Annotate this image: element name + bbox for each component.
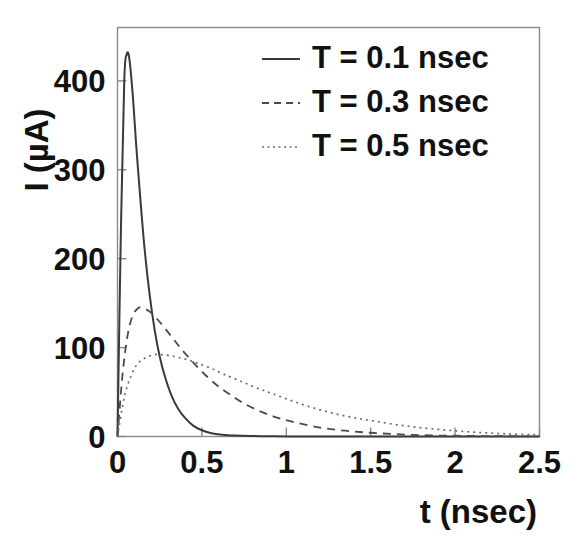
legend-label: T = 0.3 nsec (312, 84, 489, 119)
x-tick-label: 0 (109, 445, 126, 480)
x-tick-label: 0.5 (180, 445, 223, 480)
legend-label: T = 0.1 nsec (312, 40, 489, 75)
y-tick-label: 300 (54, 153, 106, 188)
x-tick-label: 1 (278, 445, 295, 480)
chart-plot-area: 00.511.522.5 0100200300400 T = 0.1 nsecT… (0, 0, 586, 541)
y-tick-label: 100 (54, 331, 106, 366)
y-tick-label: 200 (54, 242, 106, 277)
y-axis-title: I (µA) (18, 108, 55, 191)
x-tick-label: 2.5 (518, 445, 561, 480)
legend-label: T = 0.5 nsec (312, 128, 489, 163)
y-tick-label: 400 (54, 64, 106, 99)
chart-figure: 00.511.522.5 0100200300400 T = 0.1 nsecT… (0, 0, 586, 541)
x-axis-title: t (nsec) (420, 493, 537, 530)
y-tick-label: 0 (88, 420, 105, 455)
x-tick-label: 2 (446, 445, 463, 480)
x-tick-label: 1.5 (349, 445, 392, 480)
